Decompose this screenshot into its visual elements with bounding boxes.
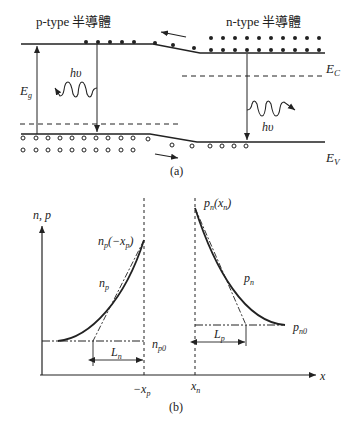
hole-flow-arrow (155, 154, 178, 158)
x-axis-label: x (319, 369, 326, 383)
photon-wave-right-icon (247, 101, 295, 116)
pn-edge-label: pn(xn) (203, 196, 231, 212)
np0-label: np0 (152, 337, 166, 353)
holes (21, 136, 248, 152)
pn0-label: pn0 (292, 320, 307, 336)
np-curve-label: np (99, 276, 109, 292)
np-edge-label: np(−xp) (98, 234, 133, 250)
np-tangent (93, 240, 144, 341)
p-type-label: p-type 半導體 (36, 14, 111, 29)
ev-label: EV (325, 150, 341, 167)
pn-tangent (195, 208, 246, 325)
neg-xp-label: −xp (133, 382, 150, 398)
photon-wave-left-icon (55, 82, 97, 97)
carrier-distribution-plot: n, p x Ln Lp np(−xp) pn(xn) np pn np0 pn… (33, 196, 326, 414)
pn-curve (195, 208, 285, 325)
n-type-label: n-type 半導體 (226, 14, 301, 29)
electron-flow-arrow (161, 32, 186, 37)
lp-label: Lp (213, 327, 225, 343)
photon-right-label: hυ (262, 120, 274, 134)
band-diagram: p-type 半導體 n-type 半導體 EC EV (19, 14, 341, 178)
xn-label: xn (190, 379, 200, 395)
ln-label: Ln (110, 345, 122, 361)
caption-a: (a) (170, 164, 183, 178)
eg-label: Eg (19, 83, 32, 100)
valence-band-edge (21, 134, 325, 142)
ec-label: EC (325, 61, 341, 78)
pn-junction-diagram: p-type 半導體 n-type 半導體 EC EV (0, 0, 356, 422)
pn-curve-label: pn (243, 271, 254, 287)
caption-b: (b) (169, 400, 183, 414)
photon-left-label: hυ (70, 66, 82, 80)
y-axis-label: n, p (33, 208, 51, 222)
